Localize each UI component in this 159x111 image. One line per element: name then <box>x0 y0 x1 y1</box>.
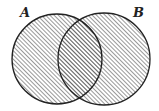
set-a-label: A <box>20 6 30 19</box>
set-b-label: B <box>133 6 144 19</box>
